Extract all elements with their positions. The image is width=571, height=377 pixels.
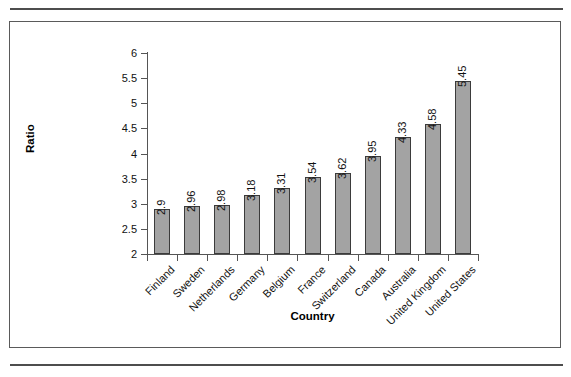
y-axis-tick-label: 6 — [10, 48, 141, 59]
bar-value-label: 2.96 — [186, 190, 197, 211]
y-axis-title: Ratio — [24, 124, 36, 153]
page-rule-bottom — [10, 364, 563, 366]
bar — [425, 124, 441, 254]
bar-value-label: 4.58 — [427, 109, 438, 130]
x-axis-tick — [478, 254, 479, 261]
y-axis-tick — [141, 103, 147, 104]
y-axis-tick-label: 5.5 — [10, 73, 141, 84]
bar — [274, 188, 290, 254]
bar-value-label: 2.98 — [216, 189, 227, 210]
figure-frame: 22.533.544.555.56 2.92.962.983.183.313.5… — [9, 21, 561, 348]
bar-value-label: 5.45 — [457, 65, 468, 86]
bar-value-label: 3.54 — [307, 161, 318, 182]
y-axis-tick-label: 5 — [10, 98, 141, 109]
bar-value-label: 3.95 — [367, 141, 378, 162]
y-axis-tick — [141, 53, 147, 54]
y-axis-tick-label: 3 — [10, 198, 141, 209]
bar-value-label: 3.18 — [246, 179, 257, 200]
y-axis-line — [147, 52, 148, 255]
x-axis-tick — [448, 254, 449, 261]
y-axis-tick — [141, 128, 147, 129]
bar — [184, 206, 200, 254]
x-axis-tick — [328, 254, 329, 261]
x-axis-tick — [297, 254, 298, 261]
page-rule-top — [10, 8, 563, 10]
y-axis-tick — [141, 78, 147, 79]
y-axis-tick — [141, 154, 147, 155]
x-axis-tick — [267, 254, 268, 261]
y-axis-tick-label: 2.5 — [10, 223, 141, 234]
bar — [154, 209, 170, 254]
y-axis-tick-label: 2 — [10, 249, 141, 260]
bar — [455, 81, 471, 254]
x-axis-tick — [237, 254, 238, 261]
bar — [214, 205, 230, 254]
bar — [365, 156, 381, 254]
y-axis-tick — [141, 179, 147, 180]
x-axis-title: Country — [147, 310, 478, 322]
x-axis-tick — [177, 254, 178, 261]
bar — [305, 177, 321, 254]
bar-value-label: 2.9 — [156, 199, 167, 214]
y-axis-tick-label: 3.5 — [10, 173, 141, 184]
x-axis-tick — [388, 254, 389, 261]
x-axis-tick — [207, 254, 208, 261]
bar-chart: 22.533.544.555.56 2.92.962.983.183.313.5… — [10, 22, 562, 349]
x-axis-line — [147, 254, 478, 255]
bar-value-label: 4.33 — [397, 121, 408, 142]
bar — [395, 137, 411, 254]
y-axis-tick — [141, 204, 147, 205]
y-axis-tick — [141, 229, 147, 230]
bar-value-label: 3.31 — [276, 173, 287, 194]
bar — [244, 195, 260, 254]
x-axis-tick — [418, 254, 419, 261]
bar — [335, 173, 351, 254]
x-axis-tick — [358, 254, 359, 261]
x-axis-tick — [147, 254, 148, 261]
bar-value-label: 3.62 — [337, 157, 348, 178]
